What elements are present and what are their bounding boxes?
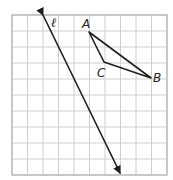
label-vertex-c: C bbox=[97, 66, 106, 80]
grid bbox=[12, 15, 167, 175]
geometry-diagram: ℓ A B C bbox=[0, 0, 173, 180]
label-line-l: ℓ bbox=[51, 15, 57, 30]
line-l bbox=[43, 15, 120, 173]
label-vertex-a: A bbox=[81, 17, 90, 31]
label-vertex-b: B bbox=[153, 71, 161, 85]
